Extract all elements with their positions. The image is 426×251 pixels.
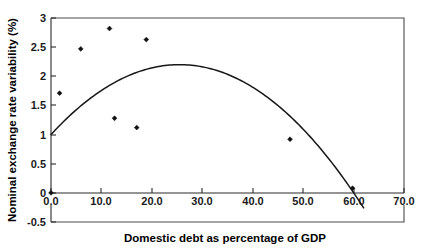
x-tick-label-50: 50.0 <box>292 195 313 207</box>
x-tick-label-20: 20.0 <box>141 195 162 207</box>
data-point <box>112 116 117 121</box>
y-axis-title: Nominal exchange rate variability (%) <box>6 18 18 222</box>
fitted-curve <box>51 65 364 208</box>
data-point <box>288 137 293 142</box>
y-tick-label-1: 1 <box>40 129 46 141</box>
chart-canvas: 3 2.5 2 1.5 1 0.5 0 -0.5 0.0 10.0 20.0 3… <box>0 0 426 251</box>
x-axis-title: Domestic debt as percentage of GDP <box>124 232 326 244</box>
data-point <box>57 91 62 96</box>
y-tick-label-0p5: 0.5 <box>31 158 46 170</box>
data-point-group <box>49 26 355 195</box>
x-tick-label-30: 30.0 <box>191 195 212 207</box>
chart-figure: 3 2.5 2 1.5 1 0.5 0 -0.5 0.0 10.0 20.0 3… <box>0 0 426 251</box>
x-tick-label-0: 0.0 <box>43 195 58 207</box>
data-point <box>107 26 112 31</box>
x-tick-label-70: 70.0 <box>393 195 414 207</box>
plot-frame-top-right <box>51 18 404 193</box>
y-tick-label-1p5: 1.5 <box>31 99 46 111</box>
y-tick-label-2: 2 <box>40 70 46 82</box>
y-tick-label-3: 3 <box>40 12 46 24</box>
x-tick-label-10: 10.0 <box>90 195 111 207</box>
x-tick-label-40: 40.0 <box>242 195 263 207</box>
data-point <box>144 37 149 42</box>
data-point <box>78 46 83 51</box>
plot-frame-bottom <box>51 205 404 222</box>
data-point <box>134 125 139 130</box>
y-tick-label-2p5: 2.5 <box>31 41 46 53</box>
y-tick-label-neg0p5: -0.5 <box>27 216 46 228</box>
